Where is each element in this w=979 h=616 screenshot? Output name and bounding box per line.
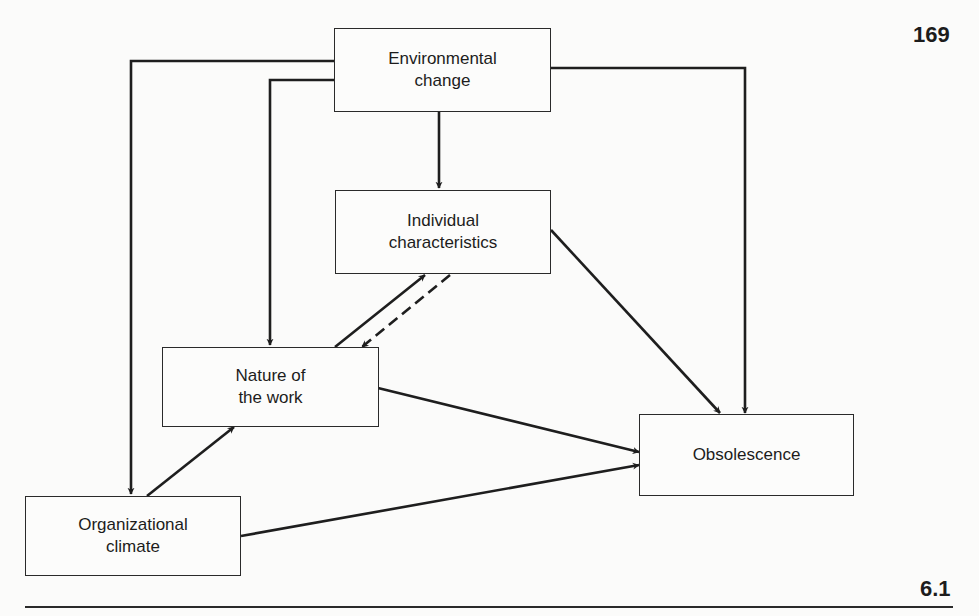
node-label: Organizational climate [78,514,188,558]
figure-number: 6.1 [920,576,951,602]
node-organizational-climate: Organizational climate [25,496,241,576]
arrow-nature-to-obsolescence [378,388,639,452]
arrow-org-to-obsolescence [241,465,639,536]
arrow-nature-to-individual [335,275,425,347]
node-label: Environmental change [388,48,497,92]
node-environmental-change: Environmental change [334,28,551,112]
page-number: 169 [913,22,950,48]
arrow-env-to-nature [270,80,334,345]
arrow-env-to-obsolescence [551,68,745,413]
node-label: Individual characteristics [389,210,498,254]
node-nature-of-the-work: Nature of the work [162,347,379,427]
node-label: Nature of the work [236,365,306,409]
arrow-individual-to-nature [362,275,450,347]
node-label: Obsolescence [693,444,801,466]
node-obsolescence: Obsolescence [639,414,854,496]
arrow-org-to-nature [147,427,234,496]
node-individual-characteristics: Individual characteristics [335,190,551,274]
arrow-individual-to-obsolescence [551,230,720,413]
